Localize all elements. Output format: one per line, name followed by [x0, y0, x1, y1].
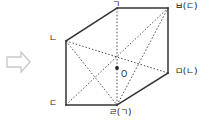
vertex-label-bottom-mid: ㄹ(ㄱ): [109, 108, 131, 117]
right-arrow-icon: [7, 52, 30, 72]
figure-canvas: ㄱ ㅂ(ㄷ) ㄴ ㅁ(ㄴ) ㄷ ㄹ(ㄱ) O: [0, 0, 217, 127]
vertex-label-left-back: ㄴ: [49, 34, 57, 43]
vertex-label-right-front: ㅁ(ㄴ): [175, 67, 197, 76]
vertex-label-bottom-left: ㄷ: [49, 99, 57, 108]
edge-left-back-to-top-back: [66, 8, 117, 41]
hidden-edge-left-back-to-bottom-mid: [66, 41, 117, 105]
center-point-dot: [115, 66, 119, 70]
vertex-label-top-right: ㅂ(ㄷ): [175, 2, 197, 11]
hidden-edge-bottom-mid-to-top-right: [117, 8, 168, 105]
center-point-label: O: [121, 71, 127, 79]
vertex-label-top-back: ㄱ: [112, 0, 120, 9]
